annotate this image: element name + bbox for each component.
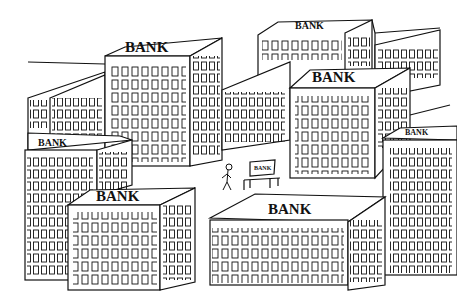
- sign-bottom-center: BANK: [268, 201, 312, 217]
- sign-left-mid: BANK: [38, 137, 67, 148]
- walking-man: [222, 164, 232, 190]
- street-line: [28, 62, 105, 64]
- sign-bench: BANK: [254, 165, 272, 171]
- building-bottom-center: BANK: [210, 194, 385, 290]
- sign-far-right: BANK: [405, 128, 429, 137]
- sign-center-right: BANK: [312, 69, 356, 85]
- building-mid-street: [222, 62, 290, 150]
- park-bench: BANK: [244, 160, 280, 190]
- building-bottom-left: BANK: [68, 188, 195, 290]
- sign-top-left: BANK: [125, 39, 169, 55]
- sign-bottom-left: BANK: [96, 188, 140, 204]
- bank-cartoon: BANK BANK BANK BANK: [0, 0, 457, 305]
- building-far-right: BANK: [383, 126, 457, 275]
- sign-top-center: BANK: [295, 20, 324, 31]
